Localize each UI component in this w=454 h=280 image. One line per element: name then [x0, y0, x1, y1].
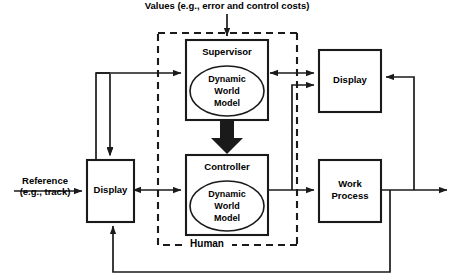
- display-to-supervisor-line: [96, 73, 181, 160]
- supervisor-inner-line3: Model: [190, 98, 264, 108]
- display-right-label: Display: [319, 75, 381, 86]
- values-label: Values (e.g., error and control costs): [107, 1, 347, 12]
- controller-inner-line2: World: [190, 201, 264, 211]
- human-boundary-label: Human: [182, 238, 232, 249]
- controller-inner-line1: Dynamic: [190, 189, 264, 199]
- work-process-label-line2: Process: [319, 191, 381, 202]
- supervisor-inner-line1: Dynamic: [190, 74, 264, 84]
- display-left-label: Display: [87, 185, 134, 196]
- diagram-canvas: Values (e.g., error and control costs) R…: [0, 0, 454, 280]
- work-process-label-line1: Work: [319, 179, 381, 190]
- supervisor-inner-line2: World: [190, 86, 264, 96]
- reference-label-line2: (e.g., track): [6, 187, 84, 198]
- controller-label: Controller: [186, 162, 268, 173]
- workprocess-feedback-to-display: [386, 77, 414, 190]
- controller-inner-line3: Model: [190, 213, 264, 223]
- supervisor-to-controller-block-arrow: [211, 120, 243, 154]
- controller-branch-to-display: [292, 85, 314, 190]
- supervisor-label: Supervisor: [186, 47, 268, 58]
